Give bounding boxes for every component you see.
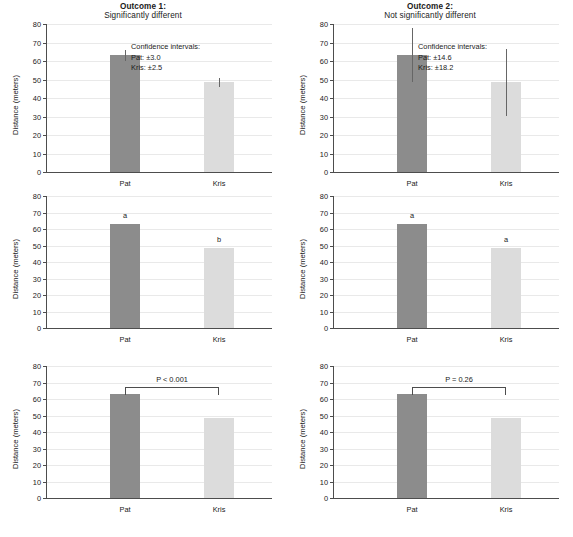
p-value-label: P = 0.26 <box>445 375 473 384</box>
bracket-horizontal-bar <box>125 387 219 388</box>
bar-pat <box>110 224 140 328</box>
p-value-label: P < 0.001 <box>156 375 188 384</box>
x-axis-label-pat: Pat <box>119 179 130 188</box>
gridline <box>334 465 559 466</box>
gridline <box>334 279 559 280</box>
y-axis-tick <box>43 246 47 247</box>
y-axis-tick <box>43 312 47 313</box>
x-axis-label-pat: Pat <box>406 179 417 188</box>
panel-title-line2: Significantly different <box>0 11 286 20</box>
y-axis-tick-label: 60 <box>320 57 328 66</box>
plot-area: 01020304050607080Distance (meters)PatKri… <box>333 366 559 499</box>
y-axis-tick <box>43 24 47 25</box>
gridline <box>334 135 559 136</box>
y-axis-tick-label: 20 <box>320 291 328 300</box>
y-axis-tick-label: 60 <box>33 395 41 404</box>
y-axis-tick <box>330 312 334 313</box>
y-axis-tick <box>330 80 334 81</box>
y-axis-tick <box>43 135 47 136</box>
plot-inner: 01020304050607080Distance (meters)PatKri… <box>334 24 559 172</box>
gridline <box>47 449 272 450</box>
y-axis-tick <box>330 449 334 450</box>
letter-annotation-pat: a <box>410 211 414 220</box>
gridline <box>334 449 559 450</box>
y-axis-tick-label: 80 <box>320 192 328 201</box>
y-axis-tick <box>43 98 47 99</box>
gridline <box>334 482 559 483</box>
y-axis-tick <box>43 154 47 155</box>
y-axis-tick-label: 40 <box>320 258 328 267</box>
y-axis-tick-label: 50 <box>320 411 328 420</box>
gridline <box>47 279 272 280</box>
x-axis-label-kris: Kris <box>213 335 226 344</box>
bar-kris <box>491 418 521 498</box>
error-bar-pat <box>125 50 126 61</box>
y-axis-tick-label: 20 <box>33 291 41 300</box>
plot-area: 01020304050607080Distance (meters)PataKr… <box>333 196 559 329</box>
y-axis-tick <box>43 366 47 367</box>
x-axis-label-pat: Pat <box>406 335 417 344</box>
y-axis-tick <box>330 432 334 433</box>
panel-title-line2: Not significantly different <box>287 11 573 20</box>
y-axis-tick-label: 30 <box>33 444 41 453</box>
x-axis-label-kris: Kris <box>213 505 226 514</box>
y-axis-tick-label: 80 <box>33 362 41 371</box>
y-axis-tick <box>330 498 334 499</box>
y-axis-tick-label: 40 <box>320 94 328 103</box>
y-axis-tick-label: 30 <box>320 112 328 121</box>
y-axis-tick <box>43 328 47 329</box>
y-axis-tick <box>43 229 47 230</box>
letter-annotation-kris: a <box>504 235 508 244</box>
y-axis-tick <box>43 399 47 400</box>
y-axis-tick-label: 80 <box>33 192 41 201</box>
y-axis-tick <box>43 262 47 263</box>
y-axis-tick-label: 80 <box>320 362 328 371</box>
y-axis-tick-label: 70 <box>320 378 328 387</box>
y-axis-tick <box>330 295 334 296</box>
y-axis-tick <box>43 196 47 197</box>
y-axis-tick-label: 50 <box>33 241 41 250</box>
y-axis-tick <box>330 279 334 280</box>
y-axis-tick-label: 40 <box>33 428 41 437</box>
bracket-horizontal-bar <box>412 387 506 388</box>
gridline <box>47 312 272 313</box>
y-axis-tick-label: 0 <box>324 324 328 333</box>
gridline <box>47 135 272 136</box>
y-axis-tick <box>43 61 47 62</box>
ci-note-line-1: Pat: ±3.0 <box>131 53 200 64</box>
y-axis-tick-label: 60 <box>33 225 41 234</box>
y-axis-tick-label: 20 <box>320 131 328 140</box>
y-axis-tick-label: 20 <box>33 131 41 140</box>
figure-canvas: Outcome 1:Significantly different0102030… <box>0 0 573 537</box>
bar-kris <box>491 248 521 328</box>
ci-note-title: Confidence intervals: <box>131 42 200 53</box>
bar-kris <box>204 418 234 498</box>
bar-kris <box>204 82 234 172</box>
gridline <box>334 399 559 400</box>
y-axis-tick-label: 20 <box>320 461 328 470</box>
gridline <box>334 213 559 214</box>
x-axis-label-kris: Kris <box>500 335 513 344</box>
plot-inner: 01020304050607080Distance (meters)PataKr… <box>47 196 272 328</box>
y-axis-tick-label: 70 <box>320 208 328 217</box>
gridline <box>334 98 559 99</box>
gridline <box>334 196 559 197</box>
plot-area: 01020304050607080Distance (meters)PatKri… <box>46 366 272 499</box>
letter-annotation-kris: b <box>217 235 221 244</box>
y-axis-tick <box>43 295 47 296</box>
gridline <box>334 312 559 313</box>
panel-title-outcome-1: Outcome 1:Significantly different <box>0 2 286 21</box>
gridline <box>47 295 272 296</box>
letter-annotation-pat: a <box>123 211 127 220</box>
x-axis-label-pat: Pat <box>406 505 417 514</box>
gridline <box>47 366 272 367</box>
y-axis-tick <box>330 399 334 400</box>
y-axis-tick <box>330 61 334 62</box>
gridline <box>47 117 272 118</box>
gridline <box>47 24 272 25</box>
plot-inner: 01020304050607080Distance (meters)PatKri… <box>334 366 559 498</box>
y-axis-tick-label: 60 <box>33 57 41 66</box>
y-axis-tick-label: 20 <box>33 461 41 470</box>
y-axis-tick <box>330 196 334 197</box>
x-axis-label-pat: Pat <box>119 335 130 344</box>
